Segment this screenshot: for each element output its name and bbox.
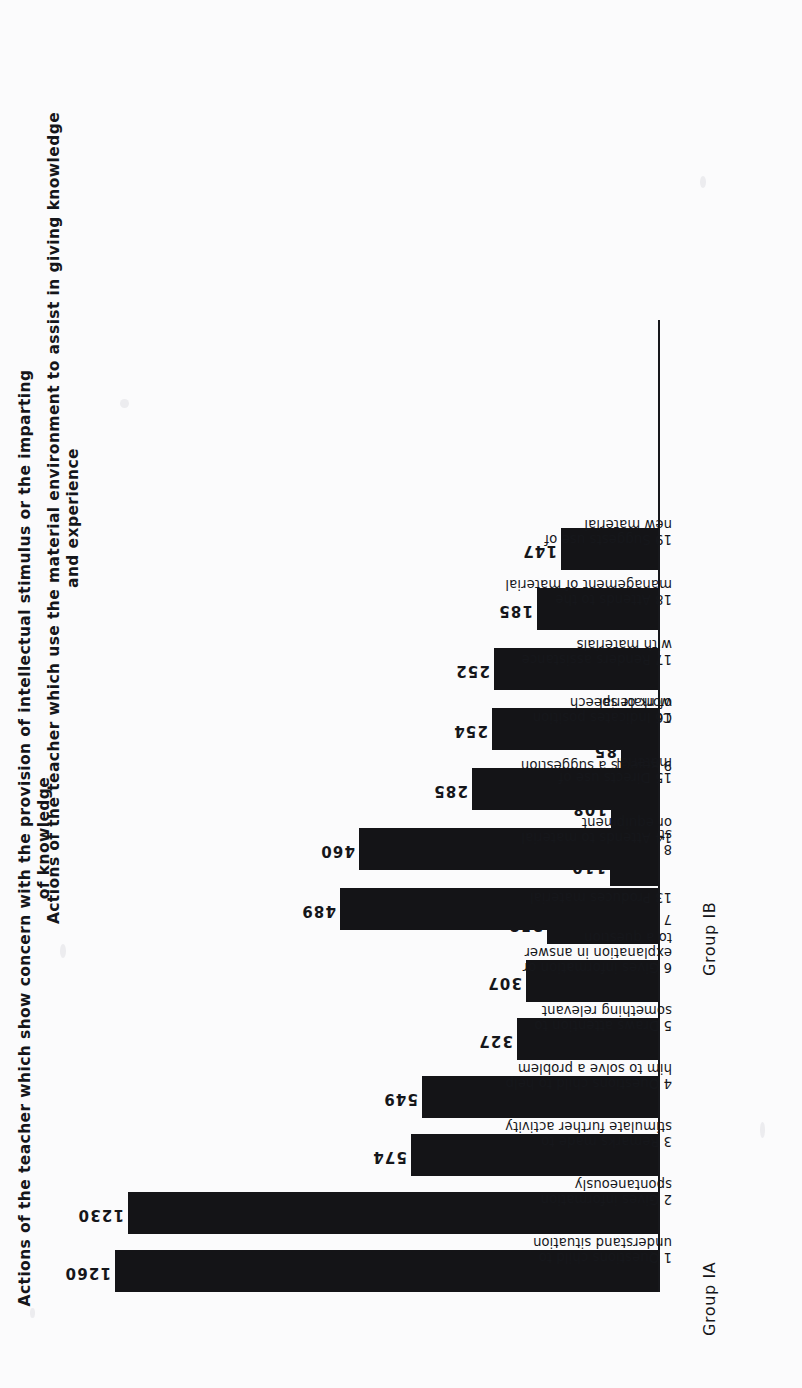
bar-value-label: 549 (383, 1090, 418, 1108)
page-sheet: Actions of the teacher which show concer… (0, 0, 802, 1388)
bar-value-label: 254 (453, 722, 488, 740)
bar-value-label: 1230 (77, 1206, 124, 1224)
category-label: 18 Attends to the management of material (422, 576, 672, 606)
category-label: 2 Gives information spontaneously (422, 1176, 672, 1206)
chart-group-1b: Actions of the teacher which use the mat… (0, 0, 802, 1008)
bar-value-label: 574 (372, 1148, 407, 1166)
category-label: 15 Directs use of material (422, 754, 672, 784)
bar-value-label: 327 (478, 1032, 513, 1050)
category-label: 19 Suggests use of new material (422, 516, 672, 546)
chart-1b-group-label: Group IB (700, 902, 719, 976)
scanned-page: Actions of the teacher which show concer… (0, 0, 802, 1388)
category-label: 13 Produces material (422, 889, 672, 904)
category-label: 17 Renders assistance with materials (422, 636, 672, 666)
chart-1b-title: Actions of the teacher which use the mat… (45, 68, 84, 968)
bar-value-label: 489 (301, 902, 336, 920)
chart-1a-group-label: Group IA (700, 1262, 719, 1336)
category-label: 3 Remarks made to stimulate further acti… (422, 1118, 672, 1148)
bar-value-label: 460 (320, 842, 355, 860)
category-label: 16 Indicates position of material (422, 694, 672, 724)
chart-1b-plot: 489 460 285 (340, 320, 660, 930)
bar-value-label: 1260 (64, 1264, 111, 1282)
category-label: 14 Attends to material or equipment (422, 814, 672, 844)
category-label: 4 Questions child to help him to solve a… (422, 1060, 672, 1090)
category-label: 1 Questions child to understand situatio… (422, 1234, 672, 1264)
bar-value-label: 285 (433, 782, 468, 800)
